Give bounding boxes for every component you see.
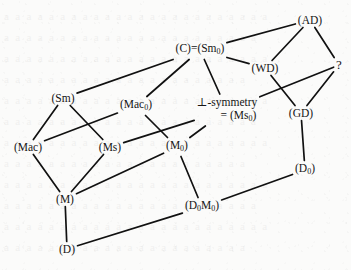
node-wd: (WD): [252, 62, 279, 74]
node-mac: (Mac): [14, 141, 42, 153]
node-qm: ?: [336, 59, 342, 71]
edge-m0-d0m0: [181, 157, 198, 198]
node-gd: (GD): [289, 107, 313, 119]
edge-sm-mac: [33, 106, 57, 140]
node-d0m0: (D0M0): [185, 199, 219, 215]
edge-c-ms0: [204, 60, 220, 95]
edge-gd-d0: [302, 121, 305, 161]
edge-d-d0m0: [77, 213, 182, 246]
node-c: (C)=(Sm0): [176, 42, 225, 58]
node-ms0-line2: = (Ms0): [197, 109, 258, 125]
edge-m-d: [65, 207, 66, 242]
edge-ms0-m0: [190, 126, 206, 138]
edge-layer: [0, 0, 351, 270]
edge-c-wd: [227, 57, 249, 63]
node-ad: (AD): [298, 14, 322, 26]
node-m: (M): [56, 193, 74, 205]
node-sm: (Sm): [52, 92, 75, 104]
edge-c-mac0: [147, 60, 189, 97]
edge-sm-ms: [70, 106, 103, 140]
node-m0: (M0): [166, 139, 188, 155]
edge-ad-qm: [315, 28, 334, 58]
edge-ad-wd: [272, 28, 303, 61]
edge-m0-m: [76, 153, 163, 193]
node-d0: (D0): [295, 162, 315, 178]
node-ms: (Ms): [99, 141, 121, 153]
node-ms0: ⊥-symmetry= (Ms0): [197, 96, 258, 125]
edge-c-sm: [77, 59, 173, 93]
diagram-canvas: a a a a a a a a a a a a a a a a a a a a …: [0, 0, 351, 270]
edge-ad-c: [227, 24, 295, 43]
edge-ms-m: [71, 155, 103, 192]
node-mac0: (Mac0): [120, 98, 152, 114]
edge-mac-m: [33, 155, 59, 192]
edge-d0-d0m0: [222, 174, 293, 199]
node-d: (D): [59, 243, 75, 255]
